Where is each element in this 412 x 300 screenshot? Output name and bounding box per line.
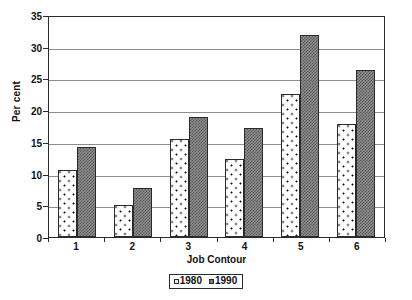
y-tick-label: 0 <box>8 233 42 244</box>
y-tick-label: 15 <box>8 137 42 148</box>
y-tick-label: 30 <box>8 42 42 53</box>
x-tick-mark <box>160 238 161 242</box>
x-tick-label: 3 <box>168 238 208 252</box>
bar-group <box>225 17 263 237</box>
x-tick-mark <box>329 238 330 242</box>
legend: 19801990 <box>0 274 412 289</box>
bar-1990-2 <box>133 188 152 237</box>
bar-1990-4 <box>244 128 263 237</box>
bar-1990-3 <box>189 117 208 238</box>
bar-1980-1 <box>58 170 77 237</box>
bar-1980-3 <box>170 139 189 237</box>
bar-1990-5 <box>300 35 319 237</box>
x-axis-title: Job Contour <box>48 254 385 265</box>
bar-groups <box>49 17 384 237</box>
bar-1980-6 <box>337 124 356 237</box>
x-tick-label: 4 <box>225 238 265 252</box>
bar-group <box>58 17 96 237</box>
legend-swatch-1980 <box>174 279 179 284</box>
x-tick-mark <box>273 238 274 242</box>
y-tick-label: 5 <box>8 201 42 212</box>
legend-box: 19801990 <box>169 274 244 289</box>
legend-item-1980: 1980 <box>174 276 202 286</box>
legend-item-1990: 1990 <box>209 276 237 286</box>
bar-group <box>337 17 375 237</box>
x-tick-mark <box>104 238 105 242</box>
bar-1980-2 <box>114 205 133 237</box>
bar-1980-5 <box>281 94 300 237</box>
x-tick-mark <box>48 238 49 242</box>
y-tick-label: 25 <box>8 74 42 85</box>
x-tick-label: 1 <box>56 238 96 252</box>
legend-label-1980: 1980 <box>180 276 202 286</box>
x-tick-mark <box>385 238 386 242</box>
x-tick-label: 2 <box>112 238 152 252</box>
bar-chart: Per cent 05101520253035 123456 Job Conto… <box>0 0 412 300</box>
bar-1990-1 <box>77 147 96 237</box>
x-tick-label: 6 <box>337 238 377 252</box>
plot-area <box>48 16 385 238</box>
bar-group <box>281 17 319 237</box>
bar-1980-4 <box>225 159 244 237</box>
bar-group <box>170 17 208 237</box>
y-tick-label: 20 <box>8 106 42 117</box>
x-tick-label: 5 <box>281 238 321 252</box>
x-tick-mark <box>217 238 218 242</box>
bar-1990-6 <box>356 70 375 237</box>
bar-group <box>114 17 152 237</box>
y-tick-label: 10 <box>8 169 42 180</box>
y-tick-label: 35 <box>8 11 42 22</box>
legend-swatch-1990 <box>209 279 214 284</box>
legend-label-1990: 1990 <box>215 276 237 286</box>
